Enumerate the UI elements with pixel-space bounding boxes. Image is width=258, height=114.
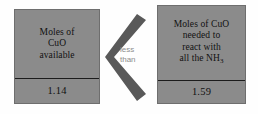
comparator-caption: less than bbox=[120, 45, 152, 64]
right-box-formula-subscript: 3 bbox=[220, 57, 224, 65]
left-box-label-line-2: CuO bbox=[48, 38, 66, 50]
left-box-label-line-1: Moles of bbox=[40, 27, 75, 39]
right-box-label-line-3: react with bbox=[182, 42, 221, 54]
right-box-label: Moles of CuO needed to react with all th… bbox=[158, 6, 245, 80]
right-box-label-line-4: all the NH3 bbox=[179, 53, 223, 68]
left-box-value: 1.14 bbox=[47, 85, 66, 97]
comparator-caption-line-2: than bbox=[120, 55, 152, 65]
left-box-label-line-3: available bbox=[39, 50, 74, 62]
right-box-value-cell: 1.59 bbox=[158, 81, 245, 103]
right-box-value: 1.59 bbox=[192, 86, 211, 98]
comparator-caption-line-1: less bbox=[120, 45, 152, 55]
left-box-value-cell: 1.14 bbox=[15, 79, 99, 103]
left-quantity-box: Moles of CuO available 1.14 bbox=[14, 9, 100, 104]
right-box-label-line-1: Moles of CuO bbox=[174, 19, 230, 31]
right-quantity-box: Moles of CuO needed to react with all th… bbox=[157, 5, 246, 104]
left-box-label: Moles of CuO available bbox=[15, 10, 99, 78]
right-box-label-line-2: needed to bbox=[183, 30, 221, 42]
right-box-formula-text: all the NH bbox=[179, 53, 220, 63]
diagram-canvas: Moles of CuO available 1.14 less than Mo… bbox=[0, 0, 258, 114]
